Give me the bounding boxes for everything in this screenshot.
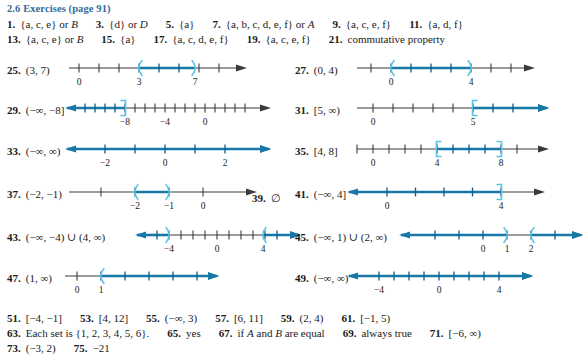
exercise-number: 63.: [7, 327, 21, 339]
number-line-graph: 01: [7, 266, 223, 300]
number-line-graph: 037: [7, 58, 251, 92]
exercise-answer: Each set is {1, 2, 3, 4, 5, 6}.: [26, 327, 150, 339]
exercise-answer: {a}: [179, 18, 194, 30]
number-line-svg: −404: [295, 266, 537, 300]
axis-tick-label: 7: [193, 77, 198, 87]
exercise-answer: {a}: [120, 33, 135, 45]
axis-arrow-right: [534, 188, 545, 195]
axis-tick-label: 0: [371, 158, 376, 168]
axis-tick-label: −1: [164, 201, 174, 211]
exercise-number: 75.: [74, 342, 88, 354]
axis-tick-label: −4: [160, 117, 170, 127]
axis-tick-label: 0: [371, 117, 376, 127]
axis-tick-label: 0: [203, 117, 208, 127]
axis-tick-label: 4: [435, 158, 440, 168]
axis-tick-label: 0: [215, 244, 220, 254]
exercise-number: 1.: [7, 18, 15, 30]
number-line-svg: 037: [7, 58, 251, 92]
axis-tick-label: −4: [164, 244, 174, 254]
number-line-svg: 01: [7, 266, 223, 300]
axis-arrow-right: [538, 145, 549, 152]
axis-tick-label: 5: [471, 117, 476, 127]
exercise-answer: {a, b, c, d, e, f} or A: [226, 18, 315, 30]
exercise-answer: yes: [186, 327, 201, 339]
axis-tick-label: 4: [469, 77, 474, 87]
axis-tick-label: 3: [137, 77, 142, 87]
exercise-number: 69.: [343, 327, 357, 339]
exercise-answer: (−∞, 3): [165, 312, 197, 324]
exercise-number: 5.: [166, 18, 174, 30]
axis-tick-label: 0: [75, 285, 80, 295]
exercise-number: 71.: [430, 327, 444, 339]
number-line-graph: 048: [295, 139, 553, 173]
exercise-answer: −21: [93, 342, 110, 354]
exercise-label: 39.∅: [252, 192, 281, 205]
number-line-graph: −404: [7, 225, 305, 259]
axis-tick-label: 0: [389, 77, 394, 87]
exercise-answer: [6, 11]: [234, 312, 263, 324]
exercise-answer: [−1, 5): [360, 312, 390, 324]
number-line-svg: −404: [7, 225, 305, 259]
exercise-answer: {a, c, e} or B: [20, 18, 78, 30]
exercise-answer: [4, 12]: [99, 312, 128, 324]
number-line-svg: −8−40: [7, 98, 275, 132]
axis-tick-label: 4: [261, 244, 266, 254]
exercise-number: 15.: [101, 33, 115, 45]
number-line-svg: 04: [295, 58, 539, 92]
exercise-number: 17.: [154, 33, 168, 45]
number-line-graph: −404: [295, 266, 537, 300]
number-line-graph: 012: [295, 225, 587, 259]
exercise-number: 65.: [167, 327, 181, 339]
exercise-number: 55.: [146, 312, 160, 324]
axis-tick-label: 0: [201, 201, 206, 211]
exercise-number: 39.: [252, 192, 266, 204]
number-line-graph: 04: [295, 58, 539, 92]
answer-text-row: 1.{a, c, e} or B3.{d} or D5.{a}7.{a, b, …: [7, 18, 463, 31]
number-line-graph: −2−10: [7, 182, 261, 216]
exercise-number: 7.: [213, 18, 221, 30]
exercise-number: 11.: [409, 18, 422, 30]
axis-tick-label: 0: [437, 285, 442, 295]
number-line-graph: −8−40: [7, 98, 275, 132]
answer-text-row: 63.Each set is {1, 2, 3, 4, 5, 6}.65.yes…: [7, 327, 481, 340]
exercise-answer: if A and B are equal: [238, 327, 325, 339]
exercise-answer: {a, c, e, f}: [265, 33, 310, 45]
number-line-graph: 04: [295, 182, 549, 216]
exercise-answer: (2, 4): [300, 312, 324, 324]
number-line-graph: 05: [295, 98, 553, 132]
number-line-svg: 05: [295, 98, 553, 132]
exercise-number: 59.: [281, 312, 295, 324]
exercise-answer: [−4, −1]: [26, 312, 62, 324]
exercise-number: 21.: [329, 33, 343, 45]
number-line-svg: 012: [295, 225, 587, 259]
exercise-number: 9.: [333, 18, 341, 30]
exercise-answer: {a, d, f}: [427, 18, 463, 30]
axis-tick-label: 4: [497, 285, 502, 295]
axis-tick-label: −2: [130, 201, 140, 211]
exercise-number: 19.: [247, 33, 261, 45]
exercise-answer: [−6, ∞): [449, 327, 481, 339]
axis-tick-label: 8: [499, 158, 504, 168]
interval-notation: ∅: [271, 192, 281, 204]
number-line-svg: 048: [295, 139, 553, 173]
exercise-number: 61.: [341, 312, 355, 324]
axis-tick-label: 4: [499, 201, 504, 211]
axis-tick-label: −8: [120, 117, 130, 127]
axis-tick-label: 1: [99, 285, 104, 295]
answer-text-row: 51.[−4, −1]53.[4, 12]55.(−∞, 3)57.[6, 11…: [7, 312, 390, 325]
number-line-svg: −202: [7, 139, 275, 173]
axis-tick-label: 2: [529, 244, 534, 254]
axis-tick-label: 0: [77, 77, 82, 87]
axis-tick-label: 0: [163, 158, 168, 168]
axis-tick-label: 2: [223, 158, 228, 168]
exercise-answer: {d} or D: [109, 18, 148, 30]
answer-text-row: 73.(−3, 2)75.−21: [7, 342, 110, 355]
exercise-answer: {a, c, d, e, f}: [172, 33, 228, 45]
page-title: 2.6 Exercises (page 91): [7, 3, 111, 14]
exercise-answer: {a, c, e, f}: [346, 18, 391, 30]
number-line-svg: 04: [295, 182, 549, 216]
axis-tick-label: −2: [100, 158, 110, 168]
exercise-number: 13.: [7, 33, 21, 45]
exercise-number: 67.: [219, 327, 233, 339]
axis-arrow-right: [260, 104, 271, 111]
